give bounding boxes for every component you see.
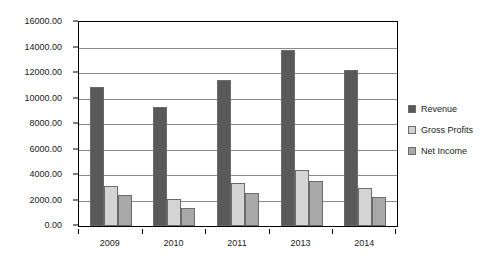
x-axis-tick-label: 2009 — [100, 238, 120, 248]
bar — [90, 87, 104, 226]
x-axis: 20092010201120132014 — [78, 229, 398, 253]
y-axis-tick-label: 0.00 — [44, 220, 62, 230]
x-axis-tick-mark — [78, 229, 79, 234]
bar — [104, 186, 118, 226]
x-axis-tick-mark — [332, 229, 333, 234]
x-axis-tick-mark — [142, 229, 143, 234]
x-axis-tick-label: 2013 — [291, 238, 311, 248]
bar — [167, 199, 181, 226]
y-axis-tick-label: 14000.00 — [24, 42, 62, 52]
y-axis-tick-label: 10000.00 — [24, 93, 62, 103]
legend-label: Revenue — [421, 104, 457, 114]
bar — [245, 193, 259, 226]
plot-area — [78, 21, 398, 227]
bar-group — [79, 22, 143, 226]
chart-legend: RevenueGross ProfitsNet Income — [408, 104, 493, 167]
bar — [118, 195, 132, 226]
x-axis-tick-mark — [269, 229, 270, 234]
bar — [217, 80, 231, 226]
x-axis-tick-mark — [395, 229, 396, 234]
x-axis-tick-label: 2011 — [227, 238, 246, 248]
x-axis-tick-label: 2014 — [354, 238, 374, 248]
legend-item[interactable]: Gross Profits — [408, 125, 493, 135]
bar — [344, 70, 358, 226]
bar-group — [270, 22, 334, 226]
bar-group — [206, 22, 270, 226]
bar — [295, 170, 309, 226]
y-axis-tick-label: 16000.00 — [24, 16, 62, 26]
y-axis-tick-label: 12000.00 — [24, 67, 62, 77]
legend-swatch-icon — [408, 126, 416, 134]
legend-label: Net Income — [421, 146, 467, 156]
bar — [181, 208, 195, 226]
bar — [358, 188, 372, 226]
x-axis-tick-mark — [205, 229, 206, 234]
bar — [309, 181, 323, 226]
bar-group — [143, 22, 207, 226]
bar — [153, 107, 167, 226]
legend-label: Gross Profits — [421, 125, 473, 135]
y-axis: 0.002000.004000.006000.008000.0010000.00… — [0, 21, 70, 227]
bar — [372, 197, 386, 226]
legend-item[interactable]: Net Income — [408, 146, 493, 156]
y-axis-tick-label: 4000.00 — [29, 169, 62, 179]
x-axis-tick-label: 2010 — [163, 238, 183, 248]
y-axis-tick-label: 2000.00 — [29, 195, 62, 205]
y-axis-tick-label: 6000.00 — [29, 144, 62, 154]
legend-item[interactable]: Revenue — [408, 104, 493, 114]
bar-group — [333, 22, 397, 226]
y-axis-tick-label: 8000.00 — [29, 118, 62, 128]
legend-swatch-icon — [408, 147, 416, 155]
bar — [231, 183, 245, 226]
bar-chart: 0.002000.004000.006000.008000.0010000.00… — [0, 0, 493, 276]
legend-swatch-icon — [408, 105, 416, 113]
bar — [281, 50, 295, 226]
